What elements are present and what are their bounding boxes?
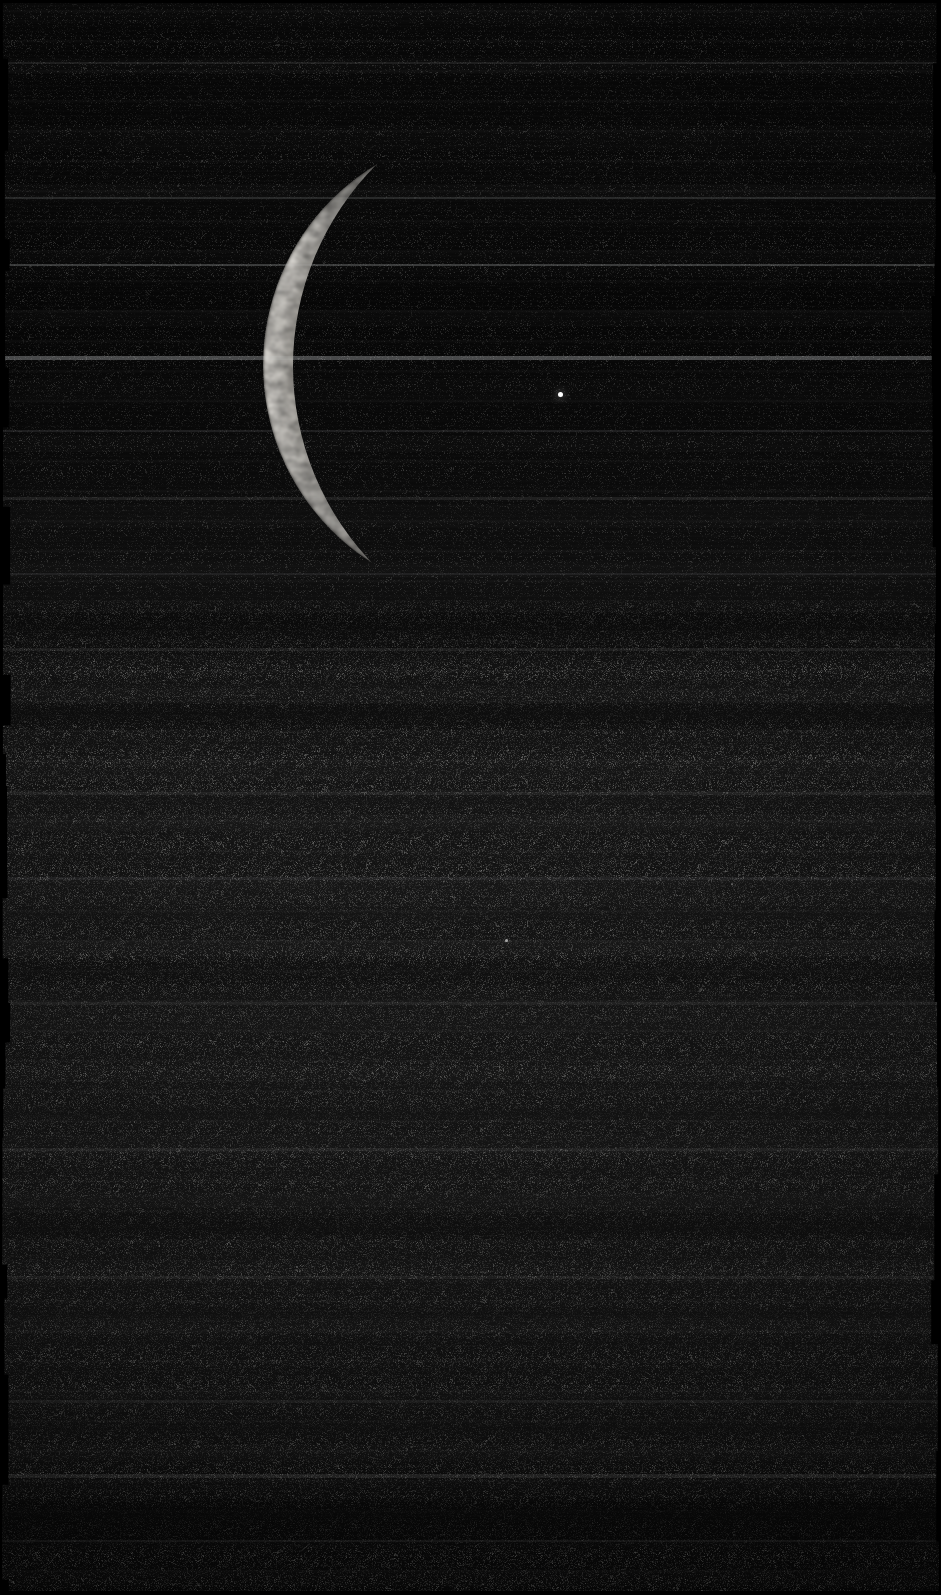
image-frame xyxy=(0,0,941,1595)
compression-noise-layer-lower xyxy=(0,600,941,1595)
